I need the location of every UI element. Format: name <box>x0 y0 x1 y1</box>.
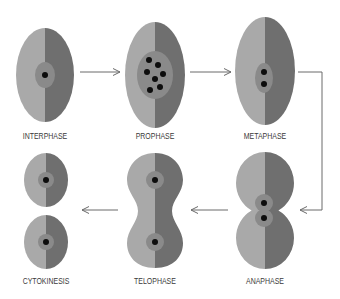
daughter-cell-bottom <box>20 212 72 272</box>
chromosome <box>160 71 166 77</box>
label-telophase: TELOPHASE <box>118 276 192 286</box>
chromosome <box>42 72 48 78</box>
chromosome <box>261 215 267 221</box>
chromosome <box>152 76 158 82</box>
nucleus <box>255 63 273 93</box>
cell-metaphase <box>230 12 305 132</box>
nucleus <box>137 51 173 99</box>
chromosome <box>261 69 267 75</box>
cell-light-half <box>120 145 155 275</box>
chromosome <box>152 239 158 245</box>
label-anaphase: ANAPHASE <box>228 276 302 286</box>
label-metaphase: METAPHASE <box>228 131 302 141</box>
cell-interphase <box>10 20 85 130</box>
chromosome <box>43 239 49 245</box>
cell-anaphase <box>230 145 305 275</box>
label-prophase: PROPHASE <box>118 131 192 141</box>
chromosome <box>261 81 267 87</box>
chromosome <box>144 69 150 75</box>
mitosis-diagram <box>0 0 340 299</box>
chromosome <box>147 87 153 93</box>
chromosome <box>152 177 158 183</box>
chromosome <box>157 84 163 90</box>
cell-prophase <box>120 15 195 135</box>
arrow-metaphase-to-anaphase <box>298 72 322 210</box>
cell-dark-half <box>265 145 305 275</box>
cell-cytokinesis <box>20 150 72 272</box>
cell-dark-half <box>155 145 195 275</box>
daughter-cell-top <box>20 150 72 210</box>
chromosome <box>43 177 49 183</box>
chromosome <box>155 62 161 68</box>
chromosome <box>146 57 152 63</box>
label-cytokinesis: CYTOKINESIS <box>9 276 83 286</box>
cell-telophase <box>120 145 195 275</box>
chromosome <box>261 200 267 206</box>
label-interphase: INTERPHASE <box>8 131 82 141</box>
